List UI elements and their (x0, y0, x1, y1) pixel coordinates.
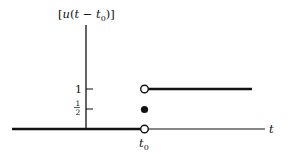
tick-label-one: 1 (75, 83, 82, 96)
x-axis-label: t (269, 122, 274, 136)
t0-label: t0 (139, 136, 149, 152)
tick-label-half-denominator: 2 (76, 108, 81, 117)
y-axis-label: [u(t − t0)] (58, 7, 115, 23)
filled-dot-at-half (141, 106, 148, 113)
open-circle-at-1 (141, 85, 149, 93)
open-circle-at-0 (141, 125, 149, 133)
step-function-diagram: [u(t − t0)] 1 1 2 t t0 (0, 0, 288, 158)
